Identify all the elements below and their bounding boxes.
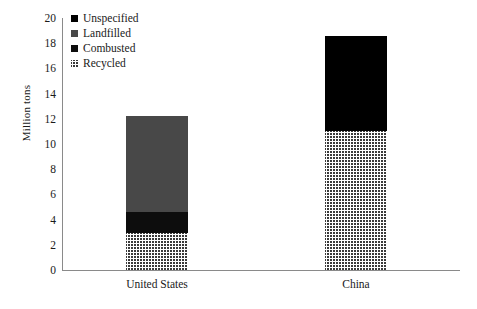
bar-segment-combusted[interactable] (126, 212, 188, 233)
y-tick-label: 20 (24, 12, 56, 24)
y-tick-label: 16 (24, 62, 56, 74)
x-axis-line (62, 270, 460, 271)
bar-segment-recycled[interactable] (126, 233, 188, 270)
y-tick-label: 2 (24, 239, 56, 251)
y-tick-label: 0 (24, 264, 56, 276)
bar-segment-recycled[interactable] (325, 131, 387, 270)
bar-united-states[interactable] (126, 116, 188, 270)
legend-swatch-combusted-icon (71, 45, 78, 52)
legend-item-recycled[interactable]: Recycled (71, 57, 139, 70)
legend-swatch-unspecified-icon (71, 15, 78, 22)
y-tick-label: 4 (24, 214, 56, 226)
legend-item-combusted[interactable]: Combusted (71, 42, 139, 55)
legend-label: Recycled (83, 57, 126, 70)
x-axis-tick-labels: United States China (63, 278, 460, 296)
chart-legend: UnspecifiedLandfilledCombustedRecycled (71, 12, 139, 70)
y-tick-label: 8 (24, 163, 56, 175)
y-axis-tick-labels: 20181614121086420 (24, 12, 56, 270)
bar-segment-unspecified[interactable] (325, 36, 387, 132)
legend-label: Unspecified (83, 12, 139, 25)
stacked-bar-chart: Million tons 20181614121086420 United St… (0, 0, 477, 309)
y-tick-label: 6 (24, 188, 56, 200)
legend-swatch-recycled-icon (71, 60, 78, 67)
y-tick-label: 12 (24, 113, 56, 125)
legend-label: Combusted (83, 42, 135, 55)
y-tick-label: 10 (24, 138, 56, 150)
bar-china[interactable] (325, 36, 387, 270)
legend-item-unspecified[interactable]: Unspecified (71, 12, 139, 25)
bar-segment-landfilled[interactable] (126, 116, 188, 212)
legend-label: Landfilled (83, 27, 131, 40)
y-tick-label: 14 (24, 88, 56, 100)
y-tick-label: 18 (24, 37, 56, 49)
legend-swatch-landfilled-icon (71, 30, 78, 37)
x-tick-label-china: China (276, 278, 436, 290)
legend-item-landfilled[interactable]: Landfilled (71, 27, 139, 40)
x-tick-label-united-states: United States (77, 278, 237, 290)
